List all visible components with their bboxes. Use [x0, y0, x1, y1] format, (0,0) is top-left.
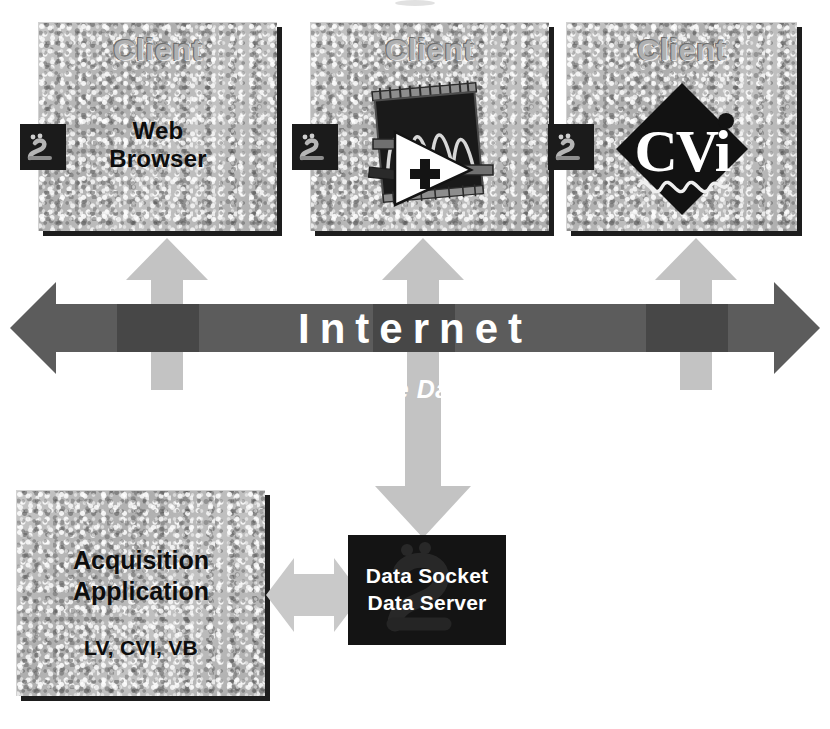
- server-downlink-arrow: [375, 390, 471, 538]
- data-socket-server-label: Data Socket Data Server: [348, 563, 506, 617]
- acquisition-application-panel[interactable]: Acquisition Application LV, CVI, VB: [16, 490, 265, 696]
- server-line-2: Data Server: [348, 590, 506, 617]
- client-header-label: Client: [39, 33, 277, 67]
- datasocket-plug-icon[interactable]: [20, 124, 66, 170]
- internet-label: Internet: [0, 305, 830, 353]
- client-panel-labview[interactable]: Client: [310, 22, 549, 231]
- client-header-label: Client: [567, 33, 797, 67]
- client-header-label: Client: [311, 33, 549, 67]
- datasocket-plug-icon[interactable]: [292, 124, 338, 170]
- web-browser-text-icon: Web Browser: [109, 117, 206, 174]
- svg-text:CVi: CVi: [634, 118, 730, 184]
- diagram-canvas: Client Web Browser Client: [0, 0, 830, 729]
- client-content-web-browser: Web Browser: [39, 75, 277, 227]
- client-content-cvi: CVi: [567, 75, 797, 227]
- client-content-labview: [311, 75, 549, 227]
- cvi-icon: CVi: [602, 75, 762, 225]
- datasocket-plug-icon[interactable]: [548, 124, 594, 170]
- client-panel-cvi[interactable]: Client CVi: [566, 22, 797, 231]
- acquisition-title: Acquisition Application: [17, 545, 265, 606]
- live-data-label: Live Data: [0, 375, 830, 404]
- labview-icon: [355, 77, 505, 219]
- server-line-1: Data Socket: [348, 563, 506, 590]
- scan-crop-artifact: [395, 0, 435, 6]
- acquisition-line-2: Application: [17, 576, 265, 607]
- data-socket-server-box[interactable]: Data Socket Data Server: [348, 535, 506, 645]
- acquisition-line-1: Acquisition: [17, 545, 265, 576]
- acquisition-languages-label: LV, CVI, VB: [17, 636, 265, 660]
- client-line-2: Browser: [109, 145, 206, 173]
- client-line-1: Web: [109, 117, 206, 145]
- client-panel-web-browser[interactable]: Client Web Browser: [38, 22, 277, 231]
